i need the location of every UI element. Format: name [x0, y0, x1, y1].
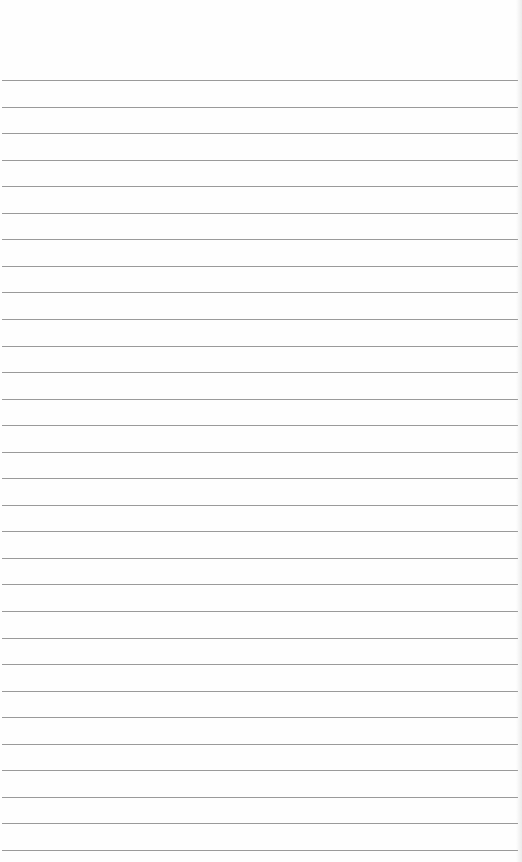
ruled-line [2, 770, 518, 771]
ruled-line [2, 372, 518, 373]
ruled-line [2, 399, 518, 400]
ruled-line [2, 531, 518, 532]
paper-edge-shadow [516, 0, 522, 862]
ruled-line [2, 797, 518, 798]
ruled-line [2, 584, 518, 585]
ruled-line [2, 823, 518, 824]
ruled-line [2, 239, 518, 240]
ruled-line [2, 133, 518, 134]
ruled-line [2, 850, 518, 851]
ruled-line [2, 558, 518, 559]
ruled-line [2, 638, 518, 639]
ruled-line [2, 160, 518, 161]
ruled-line [2, 505, 518, 506]
ruled-line [2, 717, 518, 718]
ruled-line [2, 664, 518, 665]
ruled-line [2, 266, 518, 267]
ruled-line [2, 744, 518, 745]
ruled-line [2, 691, 518, 692]
ruled-line [2, 213, 518, 214]
ruled-line [2, 452, 518, 453]
ruled-line [2, 319, 518, 320]
ruled-line [2, 425, 518, 426]
ruled-line [2, 292, 518, 293]
ruled-line [2, 80, 518, 81]
ruled-line [2, 107, 518, 108]
ruled-line [2, 611, 518, 612]
ruled-line [2, 346, 518, 347]
ruled-line [2, 478, 518, 479]
ruled-line [2, 186, 518, 187]
lined-paper [0, 0, 522, 862]
